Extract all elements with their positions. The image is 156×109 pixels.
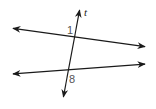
line-bottom: [13, 64, 145, 74]
line-top: [13, 28, 145, 46]
transversal-label: t: [84, 6, 88, 18]
angle-8-label: 8: [69, 73, 75, 85]
diagram-canvas: t 1 8: [0, 0, 156, 109]
angle-1-label: 1: [67, 24, 73, 36]
